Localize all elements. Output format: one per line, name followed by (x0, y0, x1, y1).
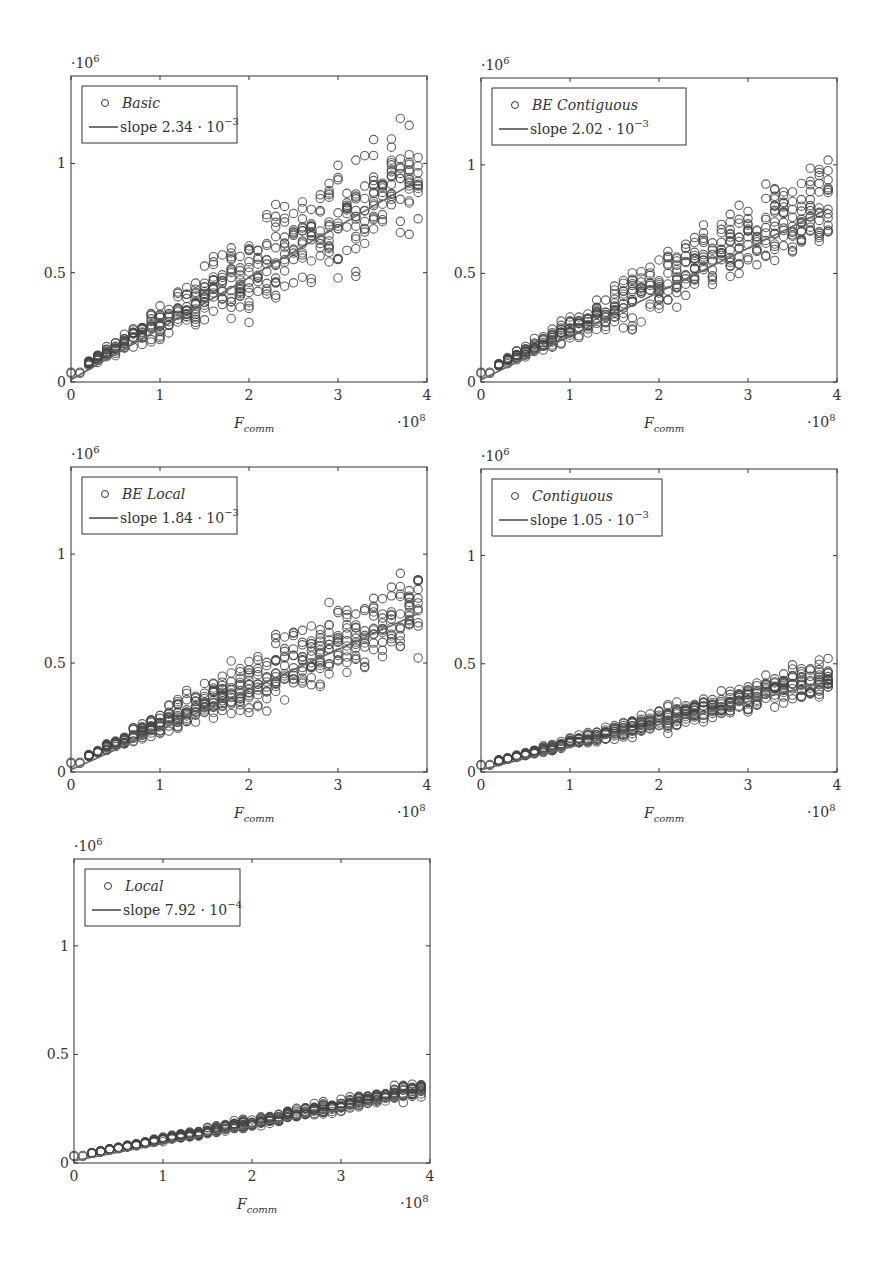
data-point (272, 223, 280, 231)
data-point (289, 279, 297, 287)
data-point (280, 202, 288, 210)
y-tick-label: 1 (57, 546, 66, 562)
x-tick-label: 3 (334, 777, 343, 793)
data-point (405, 230, 413, 238)
data-point (298, 198, 306, 206)
data-point (298, 626, 306, 634)
y-multiplier: ·106 (481, 446, 510, 464)
data-point (280, 696, 288, 704)
x-tick-label: 4 (833, 387, 842, 403)
data-point (156, 302, 164, 310)
data-point (815, 179, 823, 187)
data-point (97, 1147, 105, 1155)
data-point (628, 287, 636, 295)
data-point (788, 213, 796, 221)
data-point (762, 671, 770, 679)
legend: BE Contiguousslope 2.02 · 10−3 (492, 88, 686, 145)
data-point (619, 324, 627, 332)
data-point (378, 595, 386, 603)
y-tick-label: 0.5 (454, 656, 476, 672)
x-multiplier: ·108 (397, 802, 426, 820)
data-point (316, 252, 324, 260)
data-point (307, 205, 315, 213)
data-point (245, 318, 253, 326)
data-point (396, 174, 404, 182)
legend-slope-label: slope 7.92 · 10−4 (123, 899, 242, 918)
data-point (343, 223, 351, 231)
data-point (298, 273, 306, 281)
data-point (369, 135, 377, 143)
x-tick-label: 0 (67, 387, 76, 403)
data-point (369, 594, 377, 602)
y-tick-label: 1 (60, 938, 69, 954)
scatter-points (67, 569, 423, 767)
data-point (334, 608, 342, 616)
data-point (254, 287, 262, 295)
scatter-points (70, 1080, 426, 1161)
data-point (325, 598, 333, 606)
y-multiplier: ·106 (71, 444, 100, 462)
data-point (280, 267, 288, 275)
data-point (735, 269, 743, 277)
x-tick-label: 4 (423, 777, 432, 793)
data-point (797, 207, 805, 215)
data-point (343, 659, 351, 667)
data-point (682, 291, 690, 299)
data-point (655, 256, 663, 264)
x-axis-label: Fcomm (643, 415, 684, 434)
data-point (334, 274, 342, 282)
data-point (298, 215, 306, 223)
slope-line (71, 613, 418, 769)
data-point (236, 706, 244, 714)
x-tick-label: 4 (426, 1168, 435, 1184)
data-point (227, 657, 235, 665)
data-point (272, 200, 280, 208)
x-tick-label: 1 (566, 777, 575, 793)
x-tick-label: 2 (655, 387, 664, 403)
x-tick-label: 4 (423, 387, 432, 403)
data-point (637, 268, 645, 276)
data-point (369, 225, 377, 233)
data-point (245, 708, 253, 716)
y-tick-label: 0 (57, 764, 66, 780)
data-point (779, 242, 787, 250)
legend: BE Localslope 1.84 · 10−3 (82, 477, 239, 534)
data-point (824, 167, 832, 175)
y-tick-label: 0.5 (44, 655, 66, 671)
data-point (361, 152, 369, 160)
y-tick-label: 1 (467, 548, 476, 564)
scatter-points (477, 654, 833, 770)
x-multiplier: ·108 (400, 1193, 429, 1211)
data-point (200, 679, 208, 687)
data-point (628, 314, 636, 322)
chart-contiguous: 0123400.51·106·108FcommContiguousslope 1… (454, 446, 842, 824)
data-point (165, 727, 173, 735)
data-point (815, 188, 823, 196)
data-point (378, 216, 386, 224)
data-point (289, 209, 297, 217)
data-point (824, 156, 832, 164)
x-axis-label: Fcomm (233, 415, 274, 434)
data-point (673, 303, 681, 311)
data-point (753, 261, 761, 269)
data-point (236, 252, 244, 260)
data-point (334, 209, 342, 217)
y-tick-label: 0.5 (454, 265, 476, 281)
data-point (396, 569, 404, 577)
data-point (396, 217, 404, 225)
data-point (717, 220, 725, 228)
legend-series-label: BE Local (121, 486, 185, 502)
data-point (316, 625, 324, 633)
data-point (762, 180, 770, 188)
data-point (263, 707, 271, 715)
data-point (414, 654, 422, 662)
x-axis-label: Fcomm (233, 805, 274, 824)
y-tick-label: 0 (60, 1155, 69, 1171)
slope-line (481, 209, 828, 380)
data-point (690, 233, 698, 241)
data-point (762, 215, 770, 223)
data-point (209, 253, 217, 261)
x-multiplier: ·108 (397, 412, 426, 430)
x-multiplier: ·108 (807, 802, 836, 820)
data-point (771, 703, 779, 711)
